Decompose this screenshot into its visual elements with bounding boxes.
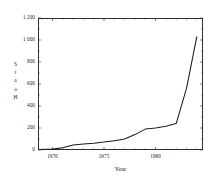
y-axis-title-char: S xyxy=(11,60,20,68)
y-axis-title-char: a xyxy=(11,76,20,84)
x-tick-label-text: 1980 xyxy=(141,153,171,159)
y-axis-title-char: H xyxy=(11,93,20,101)
x-tick-label: 1980 xyxy=(141,153,171,161)
x-axis-title: Year xyxy=(38,165,203,172)
y-tick-label-text: 200 xyxy=(8,125,35,130)
x-tick-label-text: 1975 xyxy=(89,153,119,159)
y-tick-label-text: 0 xyxy=(8,147,35,152)
y-axis-title-char: o xyxy=(11,85,20,93)
x-tick-label-text: 1970 xyxy=(37,153,67,159)
y-tick-label-text: 1 000 xyxy=(8,37,35,42)
x-tick-label: 1970 xyxy=(37,153,67,161)
y-axis-title: StaoH xyxy=(11,60,20,101)
y-tick-label-text: 400 xyxy=(8,103,35,108)
y-tick-label-text: 1 200 xyxy=(8,15,35,20)
chart-page: 02004006008001 0001 200 197019751980 Sta… xyxy=(0,0,215,181)
x-tick-label: 1975 xyxy=(89,153,119,161)
y-axis-title-char: t xyxy=(11,68,20,76)
plot-frame xyxy=(38,18,203,150)
